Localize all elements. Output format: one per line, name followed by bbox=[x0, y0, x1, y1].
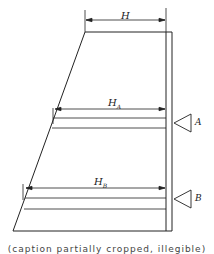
water-level-a-marker bbox=[174, 114, 191, 132]
level-a-dimension bbox=[52, 107, 166, 128]
figure-caption: (caption partially cropped, illegible) bbox=[0, 244, 214, 254]
label-marker-b: B bbox=[195, 194, 202, 203]
label-width-a: HA bbox=[108, 98, 121, 110]
trapezoid-body bbox=[13, 32, 172, 231]
label-width-b: HB bbox=[94, 177, 107, 189]
water-level-b-marker bbox=[174, 190, 191, 208]
label-marker-a: A bbox=[195, 118, 202, 127]
label-top-width: H bbox=[121, 11, 130, 21]
